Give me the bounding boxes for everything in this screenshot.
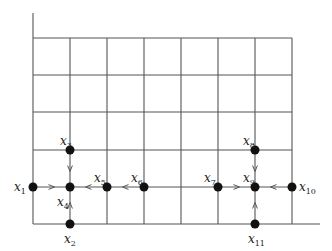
node-label-x7: x7 [204,171,216,187]
grid-graph-diagram: x1x2x3x4x5x6x7x8x9x10x11 [0,0,332,251]
node-label-x11: x11 [248,232,265,248]
node-labels: x1x2x3x4x5x6x7x8x9x10x11 [14,134,316,248]
node-label-x9: x9 [243,171,255,187]
node-label-x8: x8 [243,134,255,150]
node-x4 [66,183,75,192]
node-label-x10: x10 [299,180,316,196]
node-x10 [288,183,297,192]
node-x11 [251,220,260,229]
node-label-x4: x4 [57,195,69,211]
node-x1 [29,183,38,192]
grid-lines [33,13,320,224]
node-label-x5: x5 [94,171,106,187]
node-label-x2: x2 [64,232,76,248]
node-label-x6: x6 [131,171,143,187]
node-x2 [66,220,75,229]
node-label-x1: x1 [14,180,26,196]
